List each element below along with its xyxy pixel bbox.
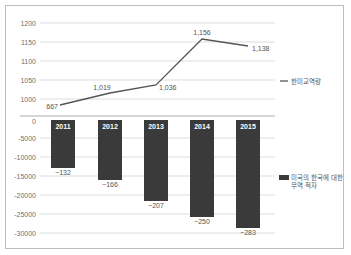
svg-text:2014: 2014 bbox=[194, 123, 210, 130]
bar-2015 bbox=[236, 120, 260, 228]
svg-text:-25000: -25000 bbox=[14, 211, 36, 218]
svg-text:2011: 2011 bbox=[55, 123, 70, 130]
svg-text:-10000: -10000 bbox=[14, 154, 36, 161]
svg-text:한미교역량: 한미교역량 bbox=[291, 77, 321, 86]
svg-text:−283: −283 bbox=[240, 229, 256, 236]
svg-text:1,156: 1,156 bbox=[193, 29, 211, 36]
svg-text:−132: −132 bbox=[55, 169, 71, 176]
svg-text:−166: −166 bbox=[102, 181, 118, 188]
svg-text:-15000: -15000 bbox=[14, 173, 36, 180]
svg-text:1150: 1150 bbox=[21, 39, 36, 46]
svg-text:1100: 1100 bbox=[21, 58, 36, 65]
svg-text:1,138: 1,138 bbox=[252, 45, 270, 52]
svg-text:−207: −207 bbox=[148, 202, 164, 209]
svg-text:1000: 1000 bbox=[20, 96, 36, 103]
line-series bbox=[60, 39, 248, 105]
bar-y-axis-ticks: 0 -5000 -10000 -15000 -20000 -25000 -300… bbox=[14, 118, 36, 237]
svg-text:2012: 2012 bbox=[102, 123, 118, 130]
line-y-axis-ticks: 1200 1150 1100 1050 1000 bbox=[20, 20, 36, 103]
svg-text:0: 0 bbox=[32, 118, 36, 125]
legend-bar: 미국의 한국에 대한 무역 적자 bbox=[279, 173, 343, 190]
svg-text:미국의 한국에 대한: 미국의 한국에 대한 bbox=[291, 173, 343, 182]
bar-2013 bbox=[144, 120, 168, 201]
svg-text:667: 667 bbox=[46, 103, 58, 110]
svg-text:-20000: -20000 bbox=[14, 192, 36, 199]
legend-line: 한미교역량 bbox=[280, 77, 321, 86]
svg-text:2013: 2013 bbox=[148, 123, 164, 130]
svg-text:무역 적자: 무역 적자 bbox=[291, 181, 317, 190]
chart-canvas: 1200 1150 1100 1050 1000 0 -5000 -10000 … bbox=[0, 0, 351, 255]
svg-text:1,019: 1,019 bbox=[93, 84, 111, 91]
line-value-labels: 667 1,019 1,036 1,156 1,138 bbox=[46, 29, 269, 110]
bar-series bbox=[51, 120, 260, 228]
category-labels: 2011 2012 2013 2014 2015 bbox=[55, 123, 255, 130]
svg-text:-5000: -5000 bbox=[18, 135, 36, 142]
svg-text:−250: −250 bbox=[194, 218, 210, 225]
svg-text:2015: 2015 bbox=[240, 123, 256, 130]
svg-text:1,036: 1,036 bbox=[159, 84, 177, 91]
svg-text:1050: 1050 bbox=[20, 77, 36, 84]
bar-2014 bbox=[190, 120, 214, 217]
line-chart-grid bbox=[40, 23, 275, 99]
svg-text:-30000: -30000 bbox=[14, 230, 36, 237]
svg-text:1200: 1200 bbox=[20, 20, 36, 27]
